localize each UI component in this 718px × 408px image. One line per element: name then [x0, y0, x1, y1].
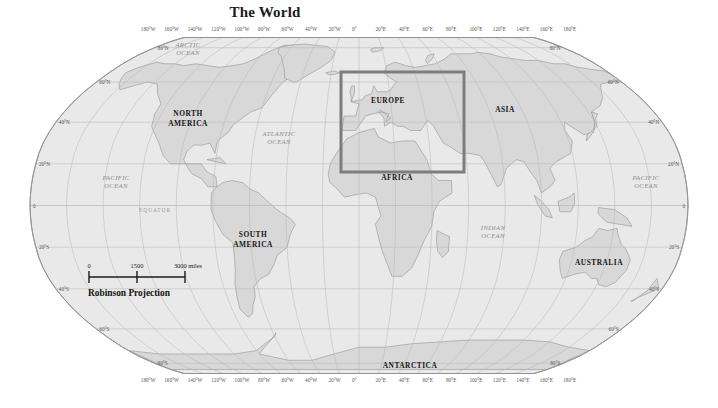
latitude-tick-label: 40°S [649, 286, 659, 292]
ocean-label-atlantic-ocean: ATLANTICOCEAN [261, 130, 295, 145]
longitude-tick-label: 140°W [188, 26, 203, 32]
ocean-label-line2: OCEAN [267, 138, 291, 145]
longitude-labels-top: 180°W160°W140°W120°W100°W80°W60°W40°W20°… [141, 26, 576, 32]
longitude-tick-label: 0° [352, 377, 357, 383]
ocean-label-line1: ATLANTIC [261, 130, 295, 137]
ocean-label-line2: OCEAN [481, 232, 505, 239]
map-canvas[interactable]: The World 180°W160°W140°W120°W100°W80°W6… [0, 0, 718, 408]
continent-label-south-america: SOUTHAMERICA [233, 230, 273, 249]
longitude-tick-label: 180°W [141, 377, 156, 383]
longitude-labels-bottom: 180°W160°W140°W120°W100°W80°W60°W40°W20°… [141, 377, 576, 383]
longitude-tick-label: 100°W [235, 26, 250, 32]
continent-label-line2: AMERICA [233, 240, 273, 249]
latitude-tick-label: 80°N [158, 45, 169, 51]
longitude-tick-label: 140°E [516, 377, 529, 383]
ocean-label-pacific-ocean-east: PACIFICOCEAN [631, 174, 659, 189]
longitude-tick-label: 160°W [164, 26, 179, 32]
longitude-tick-label: 100°W [235, 377, 250, 383]
latitude-tick-label: 40°N [59, 119, 70, 125]
longitude-tick-label: 80°E [446, 377, 456, 383]
latitude-tick-label: 60°S [609, 326, 619, 332]
latitude-tick-label: 80°S [550, 360, 560, 366]
latitude-tick-label: 80°S [158, 360, 168, 366]
longitude-tick-label: 20°W [329, 377, 341, 383]
latitude-tick-label: 0 [33, 203, 36, 209]
longitude-tick-label: 120°E [493, 26, 506, 32]
longitude-tick-label: 80°E [446, 26, 456, 32]
longitude-tick-label: 140°W [188, 377, 203, 383]
continent-label-line1: AUSTRALIA [575, 258, 623, 267]
longitude-tick-label: 20°E [376, 377, 386, 383]
ocean-label-line1: ARCTIC [174, 41, 200, 48]
latitude-tick-label: 20°S [39, 244, 49, 250]
longitude-tick-label: 120°W [211, 26, 226, 32]
longitude-tick-label: 20°E [376, 26, 386, 32]
longitude-tick-label: 160°E [540, 377, 553, 383]
projection-label: Robinson Projection [88, 288, 171, 298]
latitude-tick-label: 0 [682, 203, 685, 209]
continent-label-australia: AUSTRALIA [575, 258, 623, 267]
continent-label-line1: AFRICA [381, 173, 413, 182]
longitude-tick-label: 180°E [563, 26, 576, 32]
continent-label-asia: ASIA [495, 105, 515, 114]
longitude-tick-label: 60°W [282, 377, 294, 383]
longitude-tick-label: 60°E [422, 377, 432, 383]
ocean-label-line1: INDIAN [480, 224, 506, 231]
continent-label-europe: EUROPE [371, 96, 405, 105]
longitude-tick-label: 120°E [493, 377, 506, 383]
continent-label-line1: ASIA [495, 105, 515, 114]
ocean-label-line2: OCEAN [104, 182, 128, 189]
longitude-tick-label: 60°E [422, 26, 432, 32]
ocean-label-pacific-ocean-west: PACIFICOCEAN [101, 174, 129, 189]
longitude-tick-label: 40°W [305, 377, 317, 383]
longitude-tick-label: 140°E [516, 26, 529, 32]
continent-label-line1: SOUTH [239, 230, 267, 239]
longitude-tick-label: 40°E [399, 377, 409, 383]
longitude-tick-label: 20°W [329, 26, 341, 32]
latitude-tick-label: 60°N [608, 79, 619, 85]
continent-label-africa: AFRICA [381, 173, 413, 182]
continent-label-north-america: NORTHAMERICA [168, 109, 208, 128]
ocean-label-line1: PACIFIC [101, 174, 129, 181]
longitude-tick-label: 60°W [282, 26, 294, 32]
latitude-tick-label: 20°N [39, 161, 50, 167]
latitude-tick-label: 20°N [668, 161, 679, 167]
equator-label: EQUATOR [139, 207, 171, 213]
continent-label-line1: NORTH [173, 109, 202, 118]
ocean-label-line1: PACIFIC [631, 174, 659, 181]
latitude-tick-label: 20°S [669, 244, 679, 250]
ocean-label-arctic-ocean: ARCTICOCEAN [174, 41, 200, 56]
longitude-tick-label: 180°E [563, 377, 576, 383]
longitude-tick-label: 160°W [164, 377, 179, 383]
scale-label-zero: 0 [87, 262, 90, 269]
continent-label-antarctica: ANTARCTICA [383, 361, 438, 370]
ocean-label-line2: OCEAN [634, 182, 658, 189]
longitude-tick-label: 160°E [540, 26, 553, 32]
longitude-tick-label: 120°W [211, 377, 226, 383]
scale-label-mid: 1500 [131, 262, 144, 269]
longitude-tick-label: 180°W [141, 26, 156, 32]
longitude-tick-label: 80°W [258, 377, 270, 383]
longitude-tick-label: 40°E [399, 26, 409, 32]
latitude-tick-label: 60°S [99, 326, 109, 332]
longitude-tick-label: 100°E [469, 377, 482, 383]
ocean-label-indian-ocean: INDIANOCEAN [480, 224, 506, 239]
latitude-tick-label: 80°N [549, 45, 560, 51]
latitude-tick-label: 60°N [99, 79, 110, 85]
world-map-svg[interactable]: 180°W160°W140°W120°W100°W80°W60°W40°W20°… [0, 0, 718, 408]
latitude-tick-label: 40°S [59, 286, 69, 292]
continent-label-line2: AMERICA [168, 119, 208, 128]
ocean-label-line2: OCEAN [176, 49, 200, 56]
longitude-tick-label: 100°E [469, 26, 482, 32]
continent-label-line1: EUROPE [371, 96, 405, 105]
longitude-tick-label: 40°W [305, 26, 317, 32]
scale-label-max: 3000 miles [174, 262, 203, 269]
longitude-tick-label: 0° [352, 26, 357, 32]
continent-label-line1: ANTARCTICA [383, 361, 438, 370]
longitude-tick-label: 80°W [258, 26, 270, 32]
latitude-tick-label: 40°N [648, 119, 659, 125]
